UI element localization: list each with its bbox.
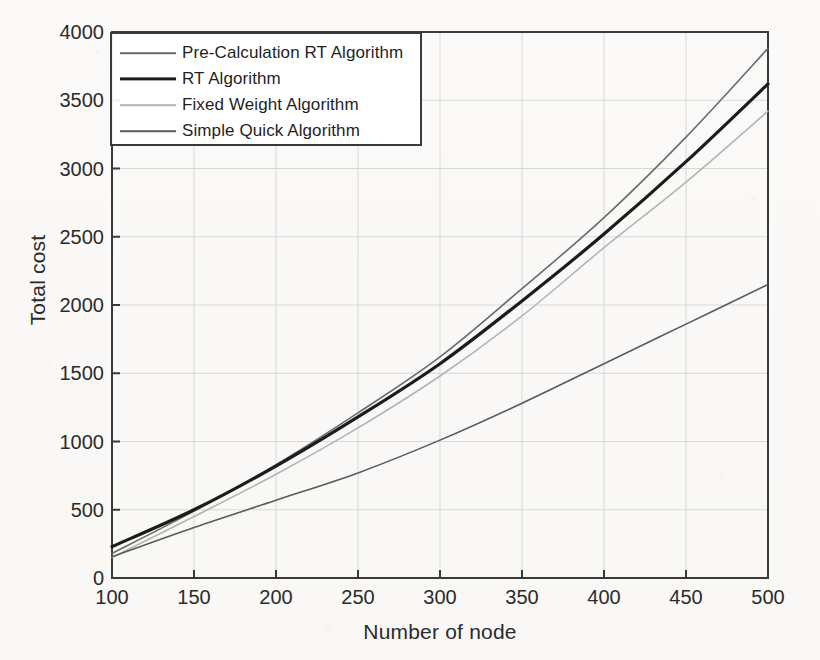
- x-tick-label: 150: [154, 586, 234, 609]
- x-tick-label: 300: [400, 586, 480, 609]
- chart-legend: Pre-Calculation RT AlgorithmRT Algorithm…: [110, 32, 422, 146]
- chart-page: 05001000150020002500300035004000 1001502…: [0, 0, 820, 660]
- x-tick-label: 200: [236, 586, 316, 609]
- legend-item-label: RT Algorithm: [182, 69, 281, 89]
- legend-line-icon: [120, 125, 176, 137]
- legend-item-label: Fixed Weight Algorithm: [182, 95, 359, 115]
- legend-item-label: Pre-Calculation RT Algorithm: [182, 43, 403, 63]
- y-tick-label: 4000: [12, 21, 104, 44]
- x-tick-label: 500: [728, 586, 808, 609]
- y-axis-tick-labels: 05001000150020002500300035004000: [8, 0, 104, 660]
- legend-item: Fixed Weight Algorithm: [112, 92, 420, 118]
- y-tick-label: 3000: [12, 157, 104, 180]
- x-tick-label: 350: [482, 586, 562, 609]
- y-tick-label: 3500: [12, 89, 104, 112]
- legend-line-icon: [120, 47, 176, 59]
- legend-line-icon: [120, 99, 176, 111]
- line-chart-figure: 05001000150020002500300035004000 1001502…: [0, 0, 820, 660]
- x-tick-label: 250: [318, 586, 398, 609]
- y-tick-label: 500: [12, 498, 104, 521]
- y-tick-label: 1000: [12, 430, 104, 453]
- legend-item-label: Simple Quick Algorithm: [182, 121, 360, 141]
- y-axis-title: Total cost: [26, 180, 50, 380]
- legend-item: RT Algorithm: [112, 66, 420, 92]
- legend-line-icon: [120, 73, 176, 85]
- x-tick-label: 450: [646, 586, 726, 609]
- x-axis-title: Number of node: [112, 620, 768, 644]
- x-tick-label: 400: [564, 586, 644, 609]
- x-tick-label: 100: [72, 586, 152, 609]
- legend-item: Simple Quick Algorithm: [112, 118, 420, 144]
- legend-item: Pre-Calculation RT Algorithm: [112, 40, 420, 66]
